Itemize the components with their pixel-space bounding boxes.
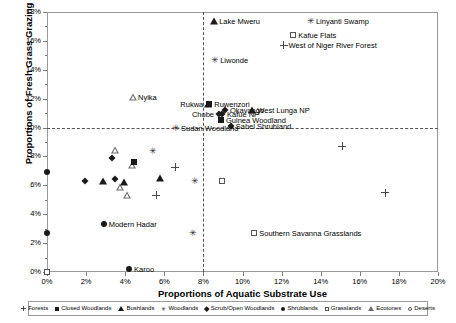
x-tick-label: 2%	[66, 278, 106, 286]
x-tick-label: 16%	[340, 278, 380, 286]
plot-area	[47, 12, 438, 272]
data-point-marker-osquare[interactable]	[290, 32, 296, 38]
data-point-marker-star[interactable]: ✳	[307, 17, 315, 25]
data-point-marker-circle[interactable]	[44, 169, 50, 175]
y-minor-tick-mark	[45, 113, 47, 114]
data-point-label: Karoo	[134, 265, 154, 274]
y-tick-mark	[43, 99, 47, 100]
y-tick-label: 8%	[1, 152, 41, 160]
data-point-marker-otriangle[interactable]	[129, 94, 137, 101]
x-tick-mark	[438, 272, 439, 276]
vertical-reference-line	[203, 12, 204, 272]
y-minor-tick-mark	[45, 55, 47, 56]
chart-legend: ForestsClosed WoodlandsBushlands✳Woodlan…	[28, 301, 428, 316]
legend-label: Closed Woodlands	[61, 305, 111, 312]
legend-label: Grasslands	[331, 305, 361, 312]
legend-marker-circle-icon	[281, 307, 285, 311]
legend-item[interactable]: Deserts	[408, 305, 435, 312]
data-point-marker-circle[interactable]	[101, 221, 107, 227]
y-tick-label: 16%	[1, 37, 41, 45]
data-point-marker-plus[interactable]	[152, 191, 160, 199]
data-point-label: Modern Hadar	[109, 219, 157, 228]
data-point-marker-star[interactable]: ✳	[189, 229, 197, 237]
data-point-marker-circle[interactable]	[44, 230, 50, 236]
x-tick-mark	[321, 272, 322, 276]
y-tick-label: 14%	[1, 66, 41, 74]
x-tick-label: 18%	[379, 278, 419, 286]
legend-item[interactable]: Closed Woodlands	[55, 305, 111, 312]
data-point-marker-osquare[interactable]	[219, 178, 225, 184]
x-tick-label: 4%	[105, 278, 145, 286]
y-tick-mark	[43, 12, 47, 13]
data-point-marker-triangle[interactable]	[204, 101, 212, 108]
data-point-label: Chobe	[192, 109, 214, 118]
data-point-marker-star[interactable]: ✳	[211, 56, 219, 64]
y-minor-tick-mark	[45, 258, 47, 259]
data-point-label: West Lunga NP	[257, 106, 309, 115]
legend-label: Deserts	[414, 305, 435, 312]
data-point-label: Linyanti Swamp	[316, 16, 369, 25]
data-point-label: Kafue Flats	[298, 31, 336, 40]
data-point-label: Liwonde	[220, 55, 248, 64]
data-point-marker-plus[interactable]	[338, 142, 346, 150]
y-tick-mark	[43, 243, 47, 244]
legend-item[interactable]: Ecotones	[368, 305, 401, 312]
data-point-marker-star[interactable]: ✳	[149, 147, 157, 155]
legend-marker-diamond-icon	[205, 306, 210, 311]
legend-marker-triangle-icon	[118, 306, 124, 311]
legend-marker-square-icon	[55, 307, 59, 311]
x-tick-label: 12%	[262, 278, 302, 286]
x-tick-mark	[164, 272, 165, 276]
x-tick-label: 14%	[301, 278, 341, 286]
legend-item[interactable]: Shrublands	[281, 305, 317, 312]
data-point-label: West of Niger River Forest	[289, 41, 377, 50]
data-point-marker-plus[interactable]	[280, 41, 288, 49]
y-minor-tick-mark	[45, 200, 47, 201]
y-tick-mark	[43, 185, 47, 186]
data-point-marker-triangle[interactable]	[120, 178, 128, 185]
y-tick-label: 2%	[1, 239, 41, 247]
data-point-marker-plus[interactable]	[171, 163, 179, 171]
data-point-marker-otriangle[interactable]	[111, 147, 119, 154]
y-tick-label: 4%	[1, 210, 41, 218]
legend-marker-otriangle-icon	[368, 306, 374, 311]
data-point-marker-star[interactable]: ✳	[191, 177, 199, 185]
y-tick-mark	[43, 70, 47, 71]
legend-item[interactable]: Bushlands	[118, 305, 154, 312]
y-tick-label: 10%	[1, 124, 41, 132]
data-point-marker-triangle[interactable]	[99, 178, 107, 185]
data-point-marker-plus[interactable]	[381, 189, 389, 197]
data-point-marker-otriangle[interactable]	[123, 192, 131, 199]
x-tick-label: 20%	[418, 278, 456, 286]
y-minor-tick-mark	[45, 84, 47, 85]
y-tick-label: 6%	[1, 181, 41, 189]
data-point-marker-triangle[interactable]	[210, 17, 218, 24]
y-tick-mark	[43, 214, 47, 215]
legend-marker-plus-icon	[21, 306, 26, 311]
y-tick-label: 0%	[1, 268, 41, 276]
x-tick-mark	[282, 272, 283, 276]
x-tick-label: 8%	[183, 278, 223, 286]
legend-label: Bushlands	[126, 305, 154, 312]
data-point-marker-osquare[interactable]	[44, 269, 50, 275]
data-point-label: Nyika	[138, 93, 157, 102]
y-minor-tick-mark	[45, 142, 47, 143]
data-point-label: Lake Mweru	[219, 16, 260, 25]
legend-item[interactable]: Grasslands	[325, 305, 361, 312]
scatter-chart: Proportions of Fresh Grass Grazing Propo…	[0, 0, 456, 323]
legend-label: Woodlands	[168, 305, 198, 312]
y-tick-mark	[43, 41, 47, 42]
legend-marker-osquare-icon	[325, 307, 329, 311]
data-point-marker-circle[interactable]	[126, 266, 132, 272]
x-tick-mark	[86, 272, 87, 276]
data-point-marker-osquare[interactable]	[251, 230, 257, 236]
data-point-marker-square[interactable]	[131, 159, 137, 165]
data-point-marker-triangle[interactable]	[248, 107, 256, 114]
x-axis-title: Proportions of Aquatic Substrate Use	[47, 288, 438, 299]
legend-item[interactable]: Forests	[21, 305, 48, 312]
data-point-marker-star[interactable]: ✳	[172, 124, 180, 132]
legend-item[interactable]: Scrub/Open Woodlands	[205, 305, 274, 312]
legend-item[interactable]: ✳Woodlands	[161, 305, 198, 312]
data-point-marker-triangle[interactable]	[156, 175, 164, 182]
y-minor-tick-mark	[45, 26, 47, 27]
